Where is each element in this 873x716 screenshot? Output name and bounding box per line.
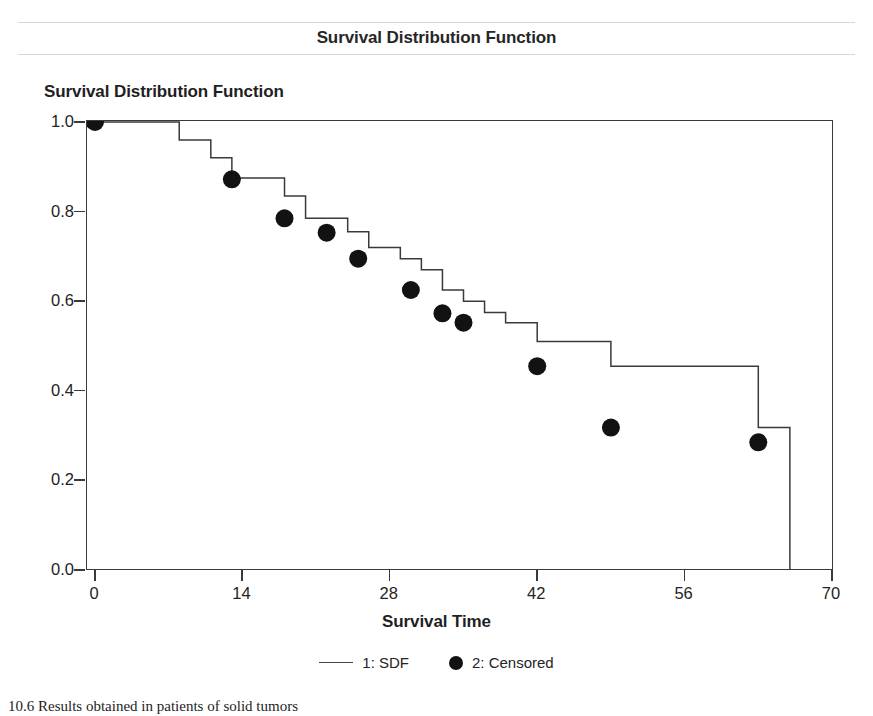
x-axis-tick-label: 70 (822, 584, 840, 603)
x-axis-tick-label: 28 (380, 584, 398, 603)
y-axis-tick-label: 0.0 (51, 560, 74, 579)
censored-marker (433, 304, 451, 322)
y-axis-tick-mark (74, 479, 85, 481)
x-axis-tick-mark (536, 570, 538, 581)
x-axis-tick-mark (94, 570, 96, 581)
y-axis-tick-mark (74, 300, 85, 302)
header-rule-top (18, 22, 855, 23)
circle-marker-icon (449, 656, 463, 670)
y-axis-tick-label: 0.2 (51, 470, 74, 489)
x-axis-tick-label: 42 (527, 584, 545, 603)
y-axis-tick-label: 0.6 (51, 291, 74, 310)
survival-curve-svg (87, 121, 834, 571)
legend-item-sdf: 1: SDF (319, 654, 409, 671)
y-axis-tick-mark (74, 390, 85, 392)
x-axis-tick-label: 0 (89, 584, 98, 603)
x-axis-tick-label: 56 (674, 584, 692, 603)
y-axis-tick-mark (74, 121, 85, 123)
sdf-step-line (95, 122, 790, 570)
y-axis-tick-mark (74, 569, 85, 571)
censored-marker (402, 281, 420, 299)
censored-marker (276, 209, 294, 227)
x-axis-tick-mark (241, 570, 243, 581)
y-axis-tick-mark (74, 211, 85, 213)
censored-marker (223, 170, 241, 188)
censored-marker (455, 314, 473, 332)
censored-marker (749, 433, 767, 451)
plot-area (86, 120, 833, 570)
header-rule-bottom (18, 54, 855, 55)
censored-marker (87, 121, 104, 131)
legend-item-censored: 2: Censored (449, 654, 554, 671)
censored-marker (349, 250, 367, 268)
y-axis-tick-labels: 0.00.20.40.60.81.0 (28, 120, 74, 570)
chart-legend: 1: SDF 2: Censored (0, 654, 873, 671)
censored-marker (602, 419, 620, 437)
y-axis-tick-label: 0.4 (51, 380, 74, 399)
figure-caption: 10.6 Results obtained in patients of sol… (8, 698, 298, 716)
line-swatch-icon (319, 662, 353, 664)
chart-title: Survival Distribution Function (44, 82, 284, 102)
page-header: Survival Distribution Function (0, 0, 873, 62)
page-header-title: Survival Distribution Function (0, 28, 873, 48)
legend-label-sdf: 1: SDF (362, 654, 409, 671)
y-axis-tick-label: 1.0 (51, 112, 74, 131)
censored-marker (318, 224, 336, 242)
legend-label-censored: 2: Censored (472, 654, 554, 671)
x-axis-tick-mark (389, 570, 391, 581)
x-axis-tick-label: 14 (232, 584, 250, 603)
y-axis-tick-label: 0.8 (51, 201, 74, 220)
x-axis-tick-mark (831, 570, 833, 581)
censored-marker (528, 357, 546, 375)
x-axis-tick-mark (684, 570, 686, 581)
x-axis-title: Survival Time (0, 612, 873, 632)
